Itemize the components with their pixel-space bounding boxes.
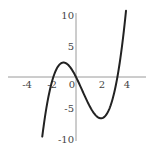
function-plot: -4-2024 105-5-10 xyxy=(0,0,158,153)
cubic-curve xyxy=(42,11,126,137)
y-tick-label: 5 xyxy=(68,41,74,52)
y-tick-label: -10 xyxy=(58,134,74,145)
y-tick-label: -5 xyxy=(64,103,74,114)
x-tick-label: 4 xyxy=(124,79,130,90)
x-tick-label: 0 xyxy=(69,79,75,90)
y-tick-label: 10 xyxy=(61,10,74,21)
x-tick-label: 2 xyxy=(99,79,105,90)
x-tick-label: -4 xyxy=(22,79,32,90)
